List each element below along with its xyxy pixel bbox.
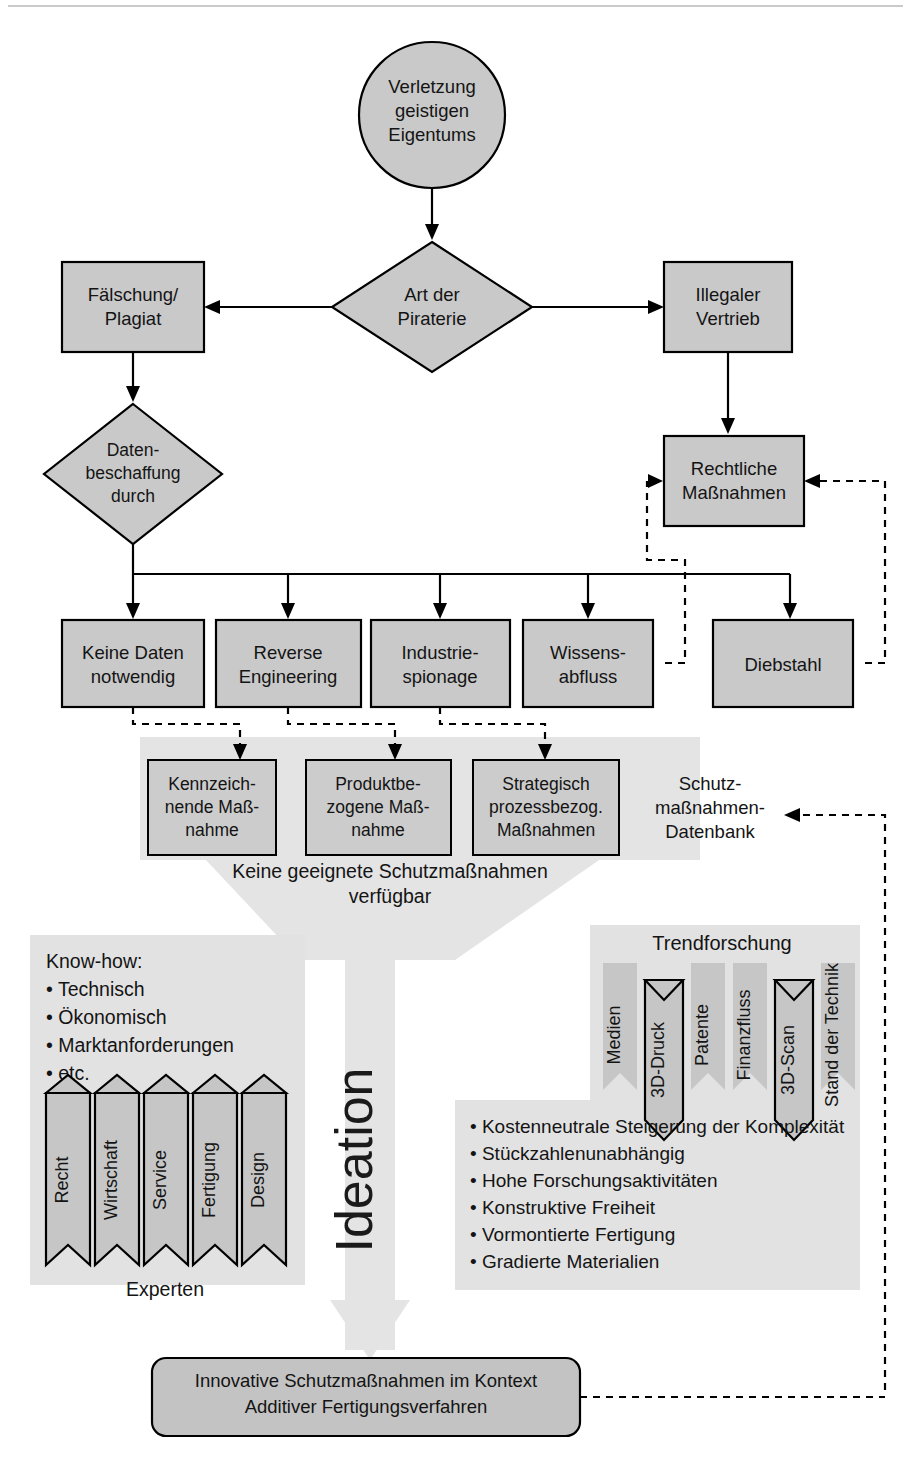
benefit-1: • Kostenneutrale Steigerung der Komplexi… [470, 1116, 845, 1137]
outcome-line-2: Additiver Fertigungsverfahren [245, 1396, 488, 1417]
flow-diagram: Verletzung geistigen Eigentums Art der P… [0, 0, 911, 1457]
m1-line-3: nahme [185, 820, 239, 840]
distribution-line-1: Illegaler [696, 284, 761, 305]
funnel-outlet-arrow [330, 1300, 410, 1360]
box1-line-2: notwendig [91, 666, 175, 687]
m2-line-2: zogene Maß- [326, 797, 429, 817]
benefit-2: • Stückzahlenunabhängig [470, 1143, 685, 1164]
arrowhead-counterfeit-to-acquisition [126, 386, 140, 402]
piracy-line-2: Piraterie [398, 308, 467, 329]
m2-line-3: nahme [351, 820, 405, 840]
knowhow-item-3: • Marktanforderungen [46, 1034, 234, 1056]
counterfeit-line-2: Plagiat [105, 308, 162, 329]
node-reverse-engineering[interactable] [216, 620, 361, 707]
acquisition-line-3: durch [111, 486, 155, 506]
experten-label-3: Service [150, 1150, 170, 1210]
benefit-3: • Hohe Forschungsaktivitäten [470, 1170, 717, 1191]
node-illegaler-vertrieb[interactable] [664, 262, 792, 352]
legal-line-2: Maßnahmen [682, 482, 786, 503]
acquisition-line-2: beschaffung [85, 463, 180, 483]
arrowhead-to-database [784, 808, 800, 822]
arrowhead-dashed-to-legal-left [648, 474, 663, 488]
node-industriespionage[interactable] [371, 620, 510, 707]
edge-acquisition-bus [133, 544, 790, 574]
arrowhead-distribution-to-legal [721, 418, 735, 434]
db-line-1: Schutz- [679, 773, 742, 794]
circle-line-2: geistigen [395, 100, 469, 121]
ideation-label: Ideation [325, 1067, 383, 1252]
trend-banner-patente[interactable]: Patente [691, 963, 725, 1090]
m1-line-1: Kennzeich- [168, 774, 256, 794]
box3-line-1: Industrie- [401, 642, 478, 663]
benefit-4: • Konstruktive Freiheit [470, 1197, 656, 1218]
trend-label-2: 3D-Druck [648, 1021, 668, 1098]
experten-label-4: Fertigung [199, 1142, 219, 1218]
circle-line-3: Eigentums [388, 124, 475, 145]
arrowhead-dashed-to-legal-right [804, 474, 820, 488]
trend-label-6: Stand der Technik [822, 962, 842, 1107]
experten-banner-design[interactable]: Design [242, 1075, 286, 1265]
node-keine-daten-notwendig[interactable] [62, 620, 204, 707]
outcome-line-1: Innovative Schutzmaßnahmen im Kontext [195, 1370, 537, 1391]
arrowhead-piracy-to-distribution [648, 300, 664, 314]
node-art-der-piraterie[interactable] [332, 242, 532, 372]
box2-line-1: Reverse [254, 642, 323, 663]
m1-line-2: nende Maß- [165, 797, 260, 817]
experten-label-2: Wirtschaft [101, 1140, 121, 1220]
trendforschung-caption: Trendforschung [652, 932, 791, 954]
m3-line-1: Strategisch [502, 774, 590, 794]
box5-line-1: Diebstahl [744, 654, 821, 675]
node-wissensabfluss[interactable] [523, 620, 653, 707]
arrowhead-branch-5 [783, 603, 797, 619]
arrowhead-piracy-to-counterfeit [204, 300, 220, 314]
m3-line-3: Maßnahmen [497, 820, 595, 840]
legal-line-1: Rechtliche [691, 458, 777, 479]
box4-line-2: abfluss [559, 666, 618, 687]
benefit-5: • Vormontierte Fertigung [470, 1224, 675, 1245]
funnel-caption-line-1: Keine geeignete Schutzmaßnahmen [232, 860, 547, 882]
trend-banner-medien[interactable]: Medien [603, 963, 637, 1090]
trend-label-4: Finanzfluss [734, 989, 754, 1080]
db-line-2: maßnahmen- [655, 797, 765, 818]
distribution-line-2: Vertrieb [696, 308, 760, 329]
db-line-3: Datenbank [665, 821, 755, 842]
arrowhead-circle-to-piracy [425, 224, 439, 240]
experten-banner-recht[interactable]: Recht [46, 1075, 90, 1265]
trend-label-1: Medien [604, 1005, 624, 1064]
piracy-line-1: Art der [404, 284, 460, 305]
funnel-caption-line-2: verfügbar [349, 885, 432, 907]
trend-banner-finanzfluss[interactable]: Finanzfluss [733, 963, 767, 1090]
experten-label-1: Recht [52, 1156, 72, 1203]
acquisition-line-1: Daten- [107, 440, 160, 460]
knowhow-item-1: • Technisch [46, 978, 145, 1000]
benefit-6: • Gradierte Materialien [470, 1251, 659, 1272]
circle-line-1: Verletzung [388, 76, 475, 97]
arrowhead-branch-3 [433, 603, 447, 619]
experten-banner-fertigung[interactable]: Fertigung [193, 1075, 237, 1265]
node-faelschung-plagiat[interactable] [62, 262, 204, 352]
m3-line-2: prozessbezog. [489, 797, 603, 817]
trend-label-3: Patente [692, 1004, 712, 1066]
trend-label-5: 3D-Scan [778, 1025, 798, 1095]
arrowhead-branch-4 [581, 603, 595, 619]
box4-line-1: Wissens- [550, 642, 626, 663]
box3-line-2: spionage [402, 666, 477, 687]
experten-label-5: Design [248, 1152, 268, 1208]
knowhow-item-2: • Ökonomisch [46, 1006, 167, 1028]
box2-line-2: Engineering [239, 666, 338, 687]
experten-banner-wirtschaft[interactable]: Wirtschaft [95, 1075, 139, 1265]
node-rechtliche-massnahmen[interactable] [664, 436, 804, 526]
arrowhead-branch-2 [281, 603, 295, 619]
arrowhead-branch-1 [126, 603, 140, 619]
counterfeit-line-1: Fälschung/ [88, 284, 179, 305]
m2-line-1: Produktbe- [335, 774, 421, 794]
experten-banner-service[interactable]: Service [144, 1075, 188, 1265]
knowhow-heading: Know-how: [46, 950, 142, 972]
box1-line-1: Keine Daten [82, 642, 184, 663]
experten-caption: Experten [126, 1278, 204, 1300]
